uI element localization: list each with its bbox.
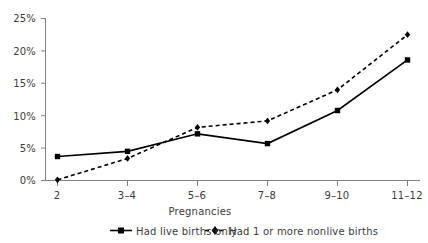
legend-square-marker	[118, 228, 124, 234]
y-tick-label-10: 10%	[2, 111, 36, 122]
chart-container: 25% 20% 15% 10% 5% 0% 2 3–4 5–6 7–8 9–10…	[0, 0, 428, 243]
y-axis-ticks	[41, 19, 46, 181]
y-tick-label-5: 5%	[2, 143, 36, 154]
data-point	[405, 57, 410, 62]
x-tick-label-9-10: 9–10	[307, 190, 367, 201]
y-tick-label-0: 0%	[2, 175, 36, 186]
data-point	[195, 131, 200, 136]
x-axis-ticks	[58, 181, 408, 187]
series-2-markers	[55, 31, 410, 183]
data-point	[335, 86, 340, 93]
data-point	[125, 155, 130, 162]
y-tick-label-25: 25%	[2, 13, 36, 24]
data-point	[125, 149, 130, 154]
data-point	[55, 176, 60, 183]
legend-label-nonlive-births: Had 1 or more nonlive births	[229, 226, 378, 237]
x-tick-label-7-8: 7–8	[237, 190, 297, 201]
series-live-births	[55, 57, 410, 159]
data-point	[335, 108, 340, 113]
series-1-markers	[55, 57, 410, 159]
x-axis-title: Pregnancies	[130, 206, 270, 217]
axis-lines	[46, 18, 421, 181]
series-1-line	[58, 60, 408, 157]
y-tick-label-15: 15%	[2, 78, 36, 89]
series-nonlive-births	[55, 31, 410, 183]
data-point	[265, 117, 270, 124]
data-point	[55, 154, 60, 159]
x-tick-label-3-4: 3–4	[97, 190, 157, 201]
legend-label-live-births: Had live births only	[136, 226, 237, 237]
x-tick-label-11-12: 11–12	[377, 190, 428, 201]
x-tick-label-2: 2	[27, 190, 87, 201]
data-point	[405, 31, 410, 38]
data-point	[195, 124, 200, 131]
data-point	[265, 141, 270, 146]
x-tick-label-5-6: 5–6	[167, 190, 227, 201]
y-tick-label-20: 20%	[2, 46, 36, 57]
series-2-line	[58, 35, 408, 180]
